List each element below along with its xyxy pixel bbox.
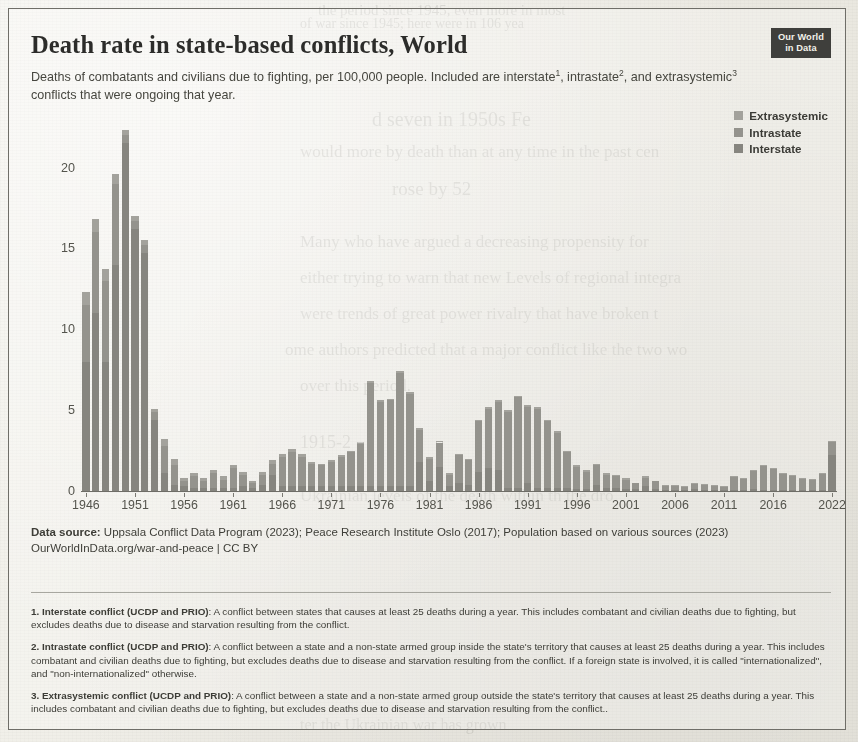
license-link[interactable]: CC BY [223, 542, 258, 554]
footnote-ref-3[interactable]: 3 [732, 68, 737, 78]
bar-segment-extrasystemic [406, 392, 413, 394]
bar-1977[interactable] [387, 399, 394, 491]
bar-segment-extrasystemic [92, 219, 99, 232]
bar-1993[interactable] [544, 420, 551, 491]
bar-2016[interactable] [770, 468, 777, 491]
bar-2009[interactable] [701, 484, 708, 491]
bar-1996[interactable] [573, 465, 580, 491]
bar-1988[interactable] [495, 400, 502, 491]
bar-segment-extrasystemic [573, 465, 580, 467]
bar-2002[interactable] [632, 483, 639, 491]
bar-1981[interactable] [426, 457, 433, 491]
bar-1972[interactable] [338, 455, 345, 491]
bar-1954[interactable] [161, 439, 168, 491]
bar-1966[interactable] [279, 454, 286, 491]
bar-1989[interactable] [504, 410, 511, 491]
bar-segment-intrastate [730, 477, 737, 490]
bar-1947[interactable] [92, 219, 99, 491]
bar-segment-intrastate [514, 397, 521, 488]
bar-1978[interactable] [396, 371, 403, 491]
bar-2008[interactable] [691, 483, 698, 491]
bar-1986[interactable] [475, 420, 482, 491]
bar-1973[interactable] [347, 451, 354, 491]
bar-2012[interactable] [730, 476, 737, 491]
bar-segment-intrastate [612, 476, 619, 487]
bar-1950[interactable] [122, 130, 129, 491]
x-axis-tick-label: 2006 [661, 498, 689, 512]
x-axis-tick-label: 1956 [170, 498, 198, 512]
bar-1952[interactable] [141, 240, 148, 491]
bar-1964[interactable] [259, 472, 266, 491]
bar-1948[interactable] [102, 269, 109, 491]
bar-1979[interactable] [406, 392, 413, 491]
bar-segment-extrasystemic [593, 464, 600, 466]
bar-2000[interactable] [612, 475, 619, 491]
bar-1960[interactable] [220, 476, 227, 491]
bar-1955[interactable] [171, 459, 178, 491]
owid-url-link[interactable]: OurWorldInData.org/war-and-peace [31, 542, 214, 554]
bar-1991[interactable] [524, 405, 531, 491]
bar-1967[interactable] [288, 449, 295, 491]
bar-1974[interactable] [357, 442, 364, 491]
bar-1995[interactable] [563, 451, 570, 491]
bar-1968[interactable] [298, 454, 305, 491]
bar-1958[interactable] [200, 478, 207, 491]
bar-segment-intrastate [475, 421, 482, 471]
logo-line-2: in Data [771, 43, 831, 54]
bar-segment-intrastate [210, 473, 217, 488]
bar-segment-interstate [112, 265, 119, 491]
our-world-in-data-logo[interactable]: Our World in Data [771, 28, 831, 58]
bar-1982[interactable] [436, 441, 443, 491]
bar-1969[interactable] [308, 462, 315, 491]
bar-1949[interactable] [112, 174, 119, 491]
bar-2018[interactable] [789, 475, 796, 491]
bar-2017[interactable] [779, 473, 786, 491]
bar-segment-extrasystemic [554, 431, 561, 433]
bar-segment-intrastate [711, 485, 718, 490]
bar-1959[interactable] [210, 470, 217, 491]
bar-2004[interactable] [652, 481, 659, 491]
bar-1971[interactable] [328, 460, 335, 491]
bar-1984[interactable] [455, 454, 462, 491]
chart-card: Death rate in state-based conflicts, Wor… [8, 8, 846, 730]
x-axis-tick-mark [430, 493, 431, 497]
bar-1980[interactable] [416, 428, 423, 491]
bar-1957[interactable] [190, 473, 197, 491]
bar-2021[interactable] [819, 473, 826, 491]
bar-segment-intrastate [446, 475, 453, 486]
bar-1953[interactable] [151, 409, 158, 491]
bar-1998[interactable] [593, 464, 600, 491]
bar-1951[interactable] [131, 216, 138, 491]
bar-2020[interactable] [809, 479, 816, 491]
bar-segment-extrasystemic [495, 400, 502, 402]
x-axis-tick-mark [86, 493, 87, 497]
bar-2022[interactable] [828, 441, 835, 491]
bar-1990[interactable] [514, 396, 521, 491]
bar-2014[interactable] [750, 470, 757, 491]
bar-1961[interactable] [230, 465, 237, 491]
bar-2013[interactable] [740, 478, 747, 491]
bar-segment-extrasystemic [612, 475, 619, 477]
bar-1963[interactable] [249, 481, 256, 491]
bar-segment-intrastate [180, 481, 187, 486]
bar-1999[interactable] [603, 473, 610, 491]
bar-1997[interactable] [583, 470, 590, 491]
bar-1962[interactable] [239, 472, 246, 491]
bar-1946[interactable] [82, 292, 89, 491]
bar-2015[interactable] [760, 465, 767, 491]
bar-1965[interactable] [269, 460, 276, 491]
bar-1987[interactable] [485, 407, 492, 491]
bar-2019[interactable] [799, 478, 806, 491]
bar-1956[interactable] [180, 478, 187, 491]
subtitle-text-3: , and extrasystemic [624, 70, 733, 84]
bar-1983[interactable] [446, 473, 453, 491]
bar-2003[interactable] [642, 476, 649, 491]
bar-1992[interactable] [534, 407, 541, 491]
x-axis-tick-mark [479, 493, 480, 497]
bar-1976[interactable] [377, 400, 384, 491]
bar-1985[interactable] [465, 459, 472, 491]
bar-2001[interactable] [622, 478, 629, 491]
bar-1975[interactable] [367, 381, 374, 491]
bar-1970[interactable] [318, 464, 325, 491]
bar-1994[interactable] [554, 431, 561, 491]
